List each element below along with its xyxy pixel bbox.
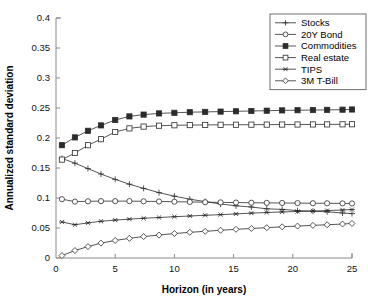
series-path bbox=[62, 158, 352, 213]
data-point-marker bbox=[172, 199, 177, 204]
x-tick-label: 20 bbox=[288, 263, 299, 274]
data-point-marker bbox=[98, 137, 103, 142]
data-point-marker bbox=[283, 32, 288, 37]
data-point-marker bbox=[295, 201, 300, 206]
data-point-marker bbox=[127, 114, 132, 119]
x-tick-label: 0 bbox=[53, 263, 58, 274]
data-point-marker bbox=[283, 55, 288, 60]
data-series-group bbox=[59, 107, 355, 259]
data-point-marker bbox=[340, 107, 345, 112]
data-point-marker bbox=[233, 212, 239, 216]
data-point-marker bbox=[187, 199, 192, 204]
data-point-marker bbox=[340, 122, 345, 127]
data-point-marker bbox=[349, 201, 354, 206]
legend-label: TIPS bbox=[301, 64, 322, 75]
data-point-marker bbox=[218, 122, 223, 127]
data-point-marker bbox=[325, 201, 330, 206]
data-point-marker bbox=[59, 157, 64, 162]
data-point-marker bbox=[310, 107, 315, 112]
data-point-marker bbox=[295, 122, 300, 127]
series-20y-bond bbox=[59, 197, 354, 206]
y-tick-label: 0.35 bbox=[32, 42, 51, 53]
data-point-marker bbox=[218, 200, 223, 205]
data-point-marker bbox=[72, 150, 77, 155]
data-point-marker bbox=[141, 124, 146, 129]
data-point-marker bbox=[98, 123, 103, 128]
x-axis-title: Horizon (in years) bbox=[162, 284, 246, 295]
data-point-marker bbox=[325, 107, 330, 112]
data-point-marker bbox=[324, 209, 330, 215]
data-point-marker bbox=[156, 123, 161, 128]
series-tips bbox=[59, 207, 355, 226]
data-point-marker bbox=[113, 117, 118, 122]
data-point-marker bbox=[72, 248, 78, 254]
data-point-marker bbox=[127, 217, 133, 221]
data-point-marker bbox=[349, 107, 354, 112]
y-tick-label: 0.15 bbox=[32, 162, 51, 173]
data-point-marker bbox=[249, 122, 254, 127]
data-point-marker bbox=[264, 200, 269, 205]
x-tick-label: 5 bbox=[113, 263, 118, 274]
data-point-marker bbox=[98, 240, 104, 246]
x-tick-label: 10 bbox=[169, 263, 180, 274]
data-point-marker bbox=[248, 225, 254, 231]
x-tick-label: 25 bbox=[347, 263, 358, 274]
data-point-marker bbox=[59, 143, 64, 148]
data-point-marker bbox=[85, 166, 91, 172]
data-point-marker bbox=[202, 213, 208, 217]
data-point-marker bbox=[349, 122, 354, 127]
data-point-marker bbox=[98, 199, 103, 204]
legend-label: 20Y Bond bbox=[301, 29, 343, 40]
data-point-marker bbox=[249, 200, 254, 205]
data-point-marker bbox=[85, 244, 91, 250]
data-point-marker bbox=[85, 128, 90, 133]
data-point-marker bbox=[85, 221, 91, 225]
data-point-marker bbox=[72, 135, 77, 140]
series-stocks bbox=[59, 155, 355, 216]
data-point-marker bbox=[280, 108, 285, 113]
data-point-marker bbox=[310, 201, 315, 206]
y-tick-label: 0.2 bbox=[37, 132, 50, 143]
line-chart: 00.050.10.150.20.250.30.350.40510152025 … bbox=[0, 0, 368, 305]
data-point-marker bbox=[310, 122, 315, 127]
x-tick-label: 15 bbox=[228, 263, 239, 274]
data-point-marker bbox=[218, 213, 224, 217]
data-point-marker bbox=[113, 129, 118, 134]
data-point-marker bbox=[218, 227, 224, 233]
data-point-marker bbox=[98, 171, 104, 177]
axis-titles: Horizon (in years)Annualized standard de… bbox=[4, 65, 246, 295]
series-path bbox=[62, 223, 352, 255]
legend-label: Commodities bbox=[301, 40, 357, 51]
data-point-marker bbox=[295, 223, 301, 229]
data-point-marker bbox=[283, 44, 288, 49]
data-point-marker bbox=[127, 199, 132, 204]
data-point-marker bbox=[112, 218, 118, 222]
legend-label: Real estate bbox=[301, 52, 349, 63]
data-point-marker bbox=[113, 199, 118, 204]
data-point-marker bbox=[172, 215, 178, 219]
data-point-marker bbox=[112, 237, 118, 243]
chart-container: 00.050.10.150.20.250.30.350.40510152025 … bbox=[0, 0, 368, 305]
data-point-marker bbox=[187, 214, 193, 218]
data-point-marker bbox=[72, 223, 78, 227]
data-point-marker bbox=[156, 232, 162, 238]
y-tick-label: 0.25 bbox=[32, 102, 51, 113]
data-point-marker bbox=[280, 200, 285, 205]
y-axis-title: Annualized standard deviation bbox=[4, 65, 15, 210]
data-point-marker bbox=[156, 111, 161, 116]
data-point-marker bbox=[310, 222, 316, 228]
data-point-marker bbox=[126, 181, 132, 187]
data-point-marker bbox=[349, 220, 355, 226]
data-point-marker bbox=[264, 108, 269, 113]
data-point-marker bbox=[233, 200, 238, 205]
data-point-marker bbox=[202, 228, 208, 234]
data-point-marker bbox=[264, 225, 270, 231]
data-point-marker bbox=[325, 122, 330, 127]
legend-label: 3M T-Bill bbox=[301, 75, 338, 86]
data-point-marker bbox=[187, 110, 192, 115]
data-point-marker bbox=[141, 199, 146, 204]
y-tick-label: 0.1 bbox=[37, 192, 50, 203]
chart-legend[interactable]: Stocks20Y BondCommoditiesReal estateTIPS… bbox=[270, 14, 366, 90]
data-point-marker bbox=[295, 208, 301, 214]
data-point-marker bbox=[127, 126, 132, 131]
